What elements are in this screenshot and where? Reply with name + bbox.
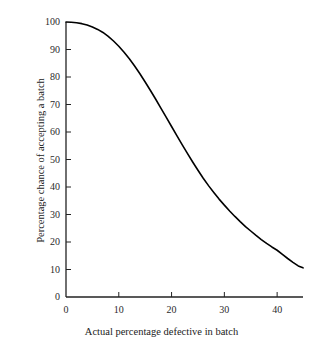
x-axis-title: Actual percentage defective in batch: [0, 326, 323, 337]
oc-curve-line: [66, 22, 303, 268]
y-axis-title: Percentage chance of accepting a batch: [35, 46, 46, 276]
y-tick-label: 100: [24, 17, 60, 27]
x-tick-label: 10: [99, 305, 139, 315]
x-tick-label: 0: [46, 305, 86, 315]
x-tick-label: 40: [257, 305, 297, 315]
x-tick-label: 20: [152, 305, 192, 315]
y-tick-label: 0: [24, 292, 60, 302]
y-axis-ticks: [66, 50, 71, 270]
x-tick-label: 30: [204, 305, 244, 315]
oc-curve-figure: 0102030405060708090100 010203040 Percent…: [0, 0, 323, 353]
x-axis-ticks: [119, 292, 277, 297]
